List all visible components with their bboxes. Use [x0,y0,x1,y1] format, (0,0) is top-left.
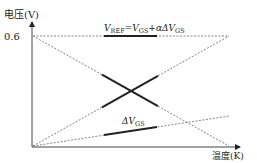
y-axis-label: 电压(V) [4,8,39,20]
voltage-temperature-diagram: 电压(V) 0.6 温度(K) VREF=VGS+αΔVGS ΔVGS [0,0,257,163]
y-tick-0-6: 0.6 [4,31,20,42]
x-axis-label: 温度(K) [212,150,244,161]
dvgs-label: ΔVGS [121,116,145,128]
vgs-solid-segment [102,75,158,106]
alpha-dvgs-solid-segment [102,76,158,107]
vref-label: VREF=VGS+αΔVGS [104,23,185,35]
dvgs-solid-segment [104,127,157,135]
